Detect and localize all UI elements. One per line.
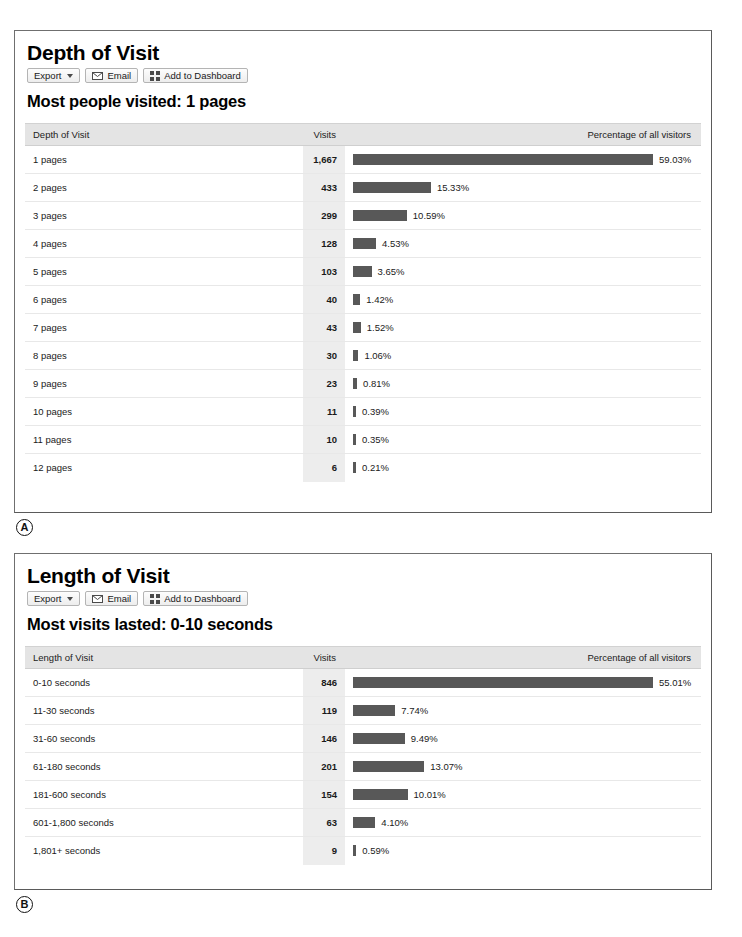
- page-title: Depth of Visit: [27, 41, 701, 65]
- figure-marker-b: B: [16, 896, 33, 913]
- row-dimension-label[interactable]: 61-180 seconds: [25, 753, 303, 781]
- row-dimension-label[interactable]: 1 pages: [25, 146, 303, 174]
- percentage-bar-wrapper: 3.65%: [353, 266, 693, 277]
- row-dimension-label[interactable]: 3 pages: [25, 202, 303, 230]
- row-visits-value: 43: [303, 314, 345, 342]
- row-visits-value: 119: [303, 697, 345, 725]
- percentage-bar-wrapper: 13.07%: [353, 761, 693, 772]
- row-dimension-label[interactable]: 1,801+ seconds: [25, 837, 303, 865]
- figure-marker-a: A: [16, 519, 33, 536]
- report-table: Length of Visit Visits Percentage of all…: [25, 646, 701, 865]
- row-percentage-cell: 0.21%: [345, 454, 701, 482]
- column-header-visits[interactable]: Visits: [303, 124, 345, 146]
- percentage-bar: [353, 350, 358, 361]
- row-dimension-label[interactable]: 601-1,800 seconds: [25, 809, 303, 837]
- email-button-label: Email: [107, 593, 131, 605]
- percentage-bar: [353, 182, 431, 193]
- percentage-bar-wrapper: 9.49%: [353, 733, 693, 744]
- row-dimension-label[interactable]: 4 pages: [25, 230, 303, 258]
- table-row: 61-180 seconds20113.07%: [25, 753, 701, 781]
- add-to-dashboard-button-label: Add to Dashboard: [164, 593, 241, 605]
- column-header-dimension[interactable]: Length of Visit: [25, 647, 303, 669]
- report-panel-length-of-visit: Length of Visit Export Email: [14, 553, 712, 890]
- percentage-bar: [353, 434, 356, 445]
- column-header-percentage: Percentage of all visitors: [345, 124, 701, 146]
- row-percentage-cell: 1.06%: [345, 342, 701, 370]
- row-visits-value: 11: [303, 398, 345, 426]
- export-button-label: Export: [34, 593, 61, 605]
- export-button[interactable]: Export: [27, 591, 80, 606]
- row-visits-value: 299: [303, 202, 345, 230]
- row-dimension-label[interactable]: 7 pages: [25, 314, 303, 342]
- percentage-label: 0.21%: [362, 462, 389, 473]
- row-percentage-cell: 9.49%: [345, 725, 701, 753]
- table-row: 6 pages401.42%: [25, 286, 701, 314]
- column-header-visits[interactable]: Visits: [303, 647, 345, 669]
- row-dimension-label[interactable]: 31-60 seconds: [25, 725, 303, 753]
- percentage-label: 9.49%: [411, 733, 438, 744]
- row-visits-value: 201: [303, 753, 345, 781]
- column-header-dimension[interactable]: Depth of Visit: [25, 124, 303, 146]
- row-visits-value: 23: [303, 370, 345, 398]
- row-visits-value: 846: [303, 669, 345, 697]
- percentage-label: 1.06%: [364, 350, 391, 361]
- summary-text: Most visits lasted: 0-10 seconds: [27, 615, 701, 634]
- report-panel-depth-of-visit: Depth of Visit Export Email: [14, 30, 712, 513]
- row-percentage-cell: 10.01%: [345, 781, 701, 809]
- row-percentage-cell: 3.65%: [345, 258, 701, 286]
- row-dimension-label[interactable]: 5 pages: [25, 258, 303, 286]
- table-header-row: Length of Visit Visits Percentage of all…: [25, 647, 701, 669]
- column-header-percentage: Percentage of all visitors: [345, 647, 701, 669]
- percentage-bar-wrapper: 4.10%: [353, 817, 693, 828]
- report-toolbar: Export Email: [27, 68, 701, 83]
- percentage-bar-wrapper: 0.39%: [353, 406, 693, 417]
- row-visits-value: 63: [303, 809, 345, 837]
- report-toolbar: Export Email: [27, 591, 701, 606]
- row-dimension-label[interactable]: 9 pages: [25, 370, 303, 398]
- row-dimension-label[interactable]: 8 pages: [25, 342, 303, 370]
- percentage-bar-wrapper: 1.06%: [353, 350, 693, 361]
- table-row: 10 pages110.39%: [25, 398, 701, 426]
- table-row: 1,801+ seconds90.59%: [25, 837, 701, 865]
- row-percentage-cell: 13.07%: [345, 753, 701, 781]
- export-button[interactable]: Export: [27, 68, 80, 83]
- percentage-label: 4.53%: [382, 238, 409, 249]
- percentage-bar: [353, 266, 372, 277]
- row-visits-value: 128: [303, 230, 345, 258]
- row-dimension-label[interactable]: 11-30 seconds: [25, 697, 303, 725]
- percentage-label: 0.39%: [362, 406, 389, 417]
- row-dimension-label[interactable]: 6 pages: [25, 286, 303, 314]
- email-button-label: Email: [107, 70, 131, 82]
- table-row: 12 pages60.21%: [25, 454, 701, 482]
- row-percentage-cell: 55.01%: [345, 669, 701, 697]
- row-dimension-label[interactable]: 11 pages: [25, 426, 303, 454]
- percentage-label: 55.01%: [659, 677, 691, 688]
- grid-icon: [150, 71, 160, 81]
- row-dimension-label[interactable]: 10 pages: [25, 398, 303, 426]
- row-percentage-cell: 10.59%: [345, 202, 701, 230]
- percentage-bar: [353, 210, 407, 221]
- row-percentage-cell: 0.59%: [345, 837, 701, 865]
- percentage-bar: [353, 733, 405, 744]
- percentage-bar: [353, 406, 356, 417]
- add-to-dashboard-button[interactable]: Add to Dashboard: [143, 591, 248, 606]
- percentage-bar: [353, 294, 360, 305]
- row-dimension-label[interactable]: 2 pages: [25, 174, 303, 202]
- percentage-bar: [353, 462, 356, 473]
- row-dimension-label[interactable]: 12 pages: [25, 454, 303, 482]
- row-percentage-cell: 15.33%: [345, 174, 701, 202]
- email-button[interactable]: Email: [85, 591, 138, 606]
- percentage-bar-wrapper: 55.01%: [353, 677, 693, 688]
- percentage-label: 1.52%: [367, 322, 394, 333]
- chevron-down-icon: [67, 74, 73, 78]
- row-dimension-label[interactable]: 181-600 seconds: [25, 781, 303, 809]
- row-visits-value: 146: [303, 725, 345, 753]
- row-dimension-label[interactable]: 0-10 seconds: [25, 669, 303, 697]
- table-row: 3 pages29910.59%: [25, 202, 701, 230]
- table-row: 181-600 seconds15410.01%: [25, 781, 701, 809]
- percentage-bar: [353, 238, 376, 249]
- email-button[interactable]: Email: [85, 68, 138, 83]
- table-row: 4 pages1284.53%: [25, 230, 701, 258]
- percentage-label: 15.33%: [437, 182, 469, 193]
- add-to-dashboard-button[interactable]: Add to Dashboard: [143, 68, 248, 83]
